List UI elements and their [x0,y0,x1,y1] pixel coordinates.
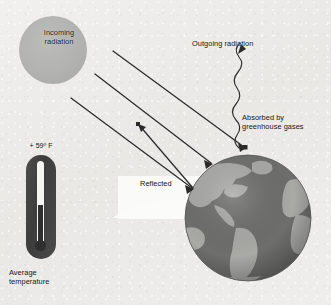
greenhouse-effect-figure: Incoming radiation [0,0,331,305]
thermometer-bulb [35,240,46,251]
absorbed-greenhouse-label: Absorbed by greenhouse gases [242,113,304,132]
incoming-ray-2 [95,74,211,163]
incoming-radiation-label: Incoming radiation [31,28,87,47]
outgoing-wave [233,43,242,148]
average-temperature-caption: Average temperature [9,268,71,287]
temperature-value: + 59º F [17,141,65,150]
reflected-label: Reflected [140,179,172,188]
outgoing-radiation-label: Outgoing radiation [192,39,253,48]
incoming-ray-3 [71,98,192,188]
incoming-ray-1 [113,51,244,147]
